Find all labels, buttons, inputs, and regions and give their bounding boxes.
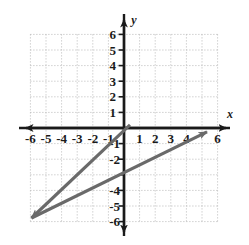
x-tick-label: -5 [41,131,52,146]
graph-canvas: -6 -5 -4 -3 -2 -1 1 2 3 4 6 6 5 4 3 2 1 … [0,0,249,245]
y-tick-label: -5 [109,199,120,214]
x-tick-label: -4 [56,131,67,146]
x-axis-label: x [226,107,233,121]
y-tick-label: -2 [109,152,120,167]
x-tick-label: 1 [136,131,143,146]
y-axis-label: y [129,13,137,27]
coordinate-plane-figure: -6 -5 -4 -3 -2 -1 1 2 3 4 6 6 5 4 3 2 1 … [0,0,249,245]
y-tick-label: -4 [109,183,120,198]
x-tick-label: -3 [72,131,83,146]
y-tick-label: 6 [110,27,117,42]
y-tick-label: 1 [110,105,117,120]
x-tick-label: 2 [152,131,159,146]
y-tick-label: 2 [110,89,117,104]
y-tick-label: -6 [109,214,120,229]
x-tick-label: 3 [168,131,175,146]
x-tick-label: -2 [87,131,98,146]
x-tick-label: 6 [214,131,221,146]
x-tick-label: -6 [25,131,36,146]
y-tick-label: 4 [110,58,117,73]
y-tick-label: 3 [110,74,117,89]
y-tick-label: 5 [110,43,117,58]
